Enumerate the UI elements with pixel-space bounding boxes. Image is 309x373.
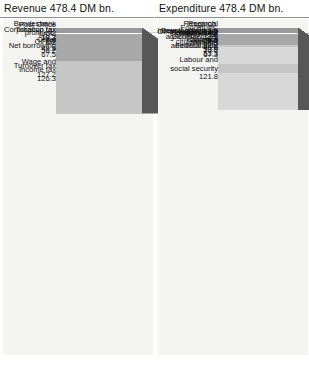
expenditure-header-rule (155, 17, 309, 18)
expenditure-column: Expenditure 478.4 DM bn. Labour and soci… (155, 0, 309, 373)
segment-label: Labour and social security 121.8 (157, 56, 222, 82)
bar-segment (218, 28, 298, 45)
revenue-header: Revenue 478.4 DM bn. (4, 2, 114, 14)
segment-label: Turnover tax 127.2 (2, 62, 60, 79)
expenditure-header: Expenditure 478.4 DM bn. (159, 2, 283, 14)
budget-flow-chart: Revenue 478.4 DM bn. Wage and income tax… (0, 0, 309, 373)
revenue-column: Revenue 478.4 DM bn. Wage and income tax… (0, 0, 154, 373)
segment-label: Other expenditure 25.6 (157, 28, 222, 45)
segment-label: Other 49.5 (2, 36, 60, 53)
bar-segment-face (218, 33, 298, 45)
bar-segment (56, 28, 142, 61)
revenue-header-rule (0, 17, 154, 18)
bar-segment-face (56, 33, 142, 61)
